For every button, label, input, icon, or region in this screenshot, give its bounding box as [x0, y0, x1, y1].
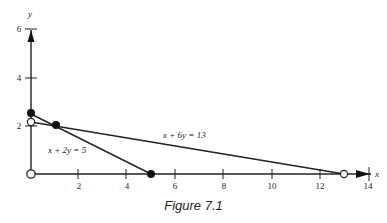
x-tick-label-10: 10 — [268, 181, 278, 191]
filled-point-1-2 — [52, 121, 60, 129]
x-tick-label-4: 4 — [125, 181, 130, 191]
open-point-origin — [27, 170, 35, 178]
y-tick-label-4: 4 — [17, 73, 22, 83]
open-point-13-0 — [340, 170, 347, 177]
equation-label-x-plus-2y: x + 2y = 5 — [47, 145, 87, 155]
y-axis-arrow-icon — [28, 30, 35, 42]
x-axis-arrow-icon — [356, 170, 370, 178]
open-point-0-2.17 — [27, 118, 34, 125]
x-tick-label-8: 8 — [222, 181, 227, 191]
x-tick-label-12: 12 — [316, 181, 325, 191]
x-axis-label: x — [374, 169, 379, 179]
x-tick-label-6: 6 — [173, 181, 178, 191]
x-tick-label-2: 2 — [77, 181, 82, 191]
figure-caption: Figure 7.1 — [0, 198, 387, 213]
filled-point-5-0 — [147, 170, 155, 178]
filled-point-0-2.5 — [27, 109, 35, 117]
y-axis-label: y — [27, 9, 32, 19]
x-tick-label-14: 14 — [364, 181, 374, 191]
chart-canvas: 2 4 6 y 2 4 6 8 10 12 14 x x + 2y = 5 x … — [0, 0, 387, 223]
equation-label-x-plus-6y: x + 6y = 13 — [162, 130, 206, 140]
y-tick-label-6: 6 — [17, 24, 22, 34]
y-tick-label-2: 2 — [17, 121, 22, 131]
line-x-plus-2y-eq-5 — [31, 114, 151, 174]
